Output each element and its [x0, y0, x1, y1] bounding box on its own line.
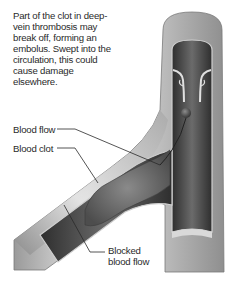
- label-line: blood flow: [108, 256, 149, 267]
- label-line: Blocked: [108, 245, 149, 256]
- caption-line: vein thrombosis may: [13, 21, 118, 32]
- caption-line: Part of the clot in deep-: [13, 10, 118, 21]
- label-blood-clot: Blood clot: [13, 143, 53, 154]
- caption-line: elsewhere.: [13, 76, 118, 87]
- caption-line: circulation, this could: [13, 54, 118, 65]
- caption-line: cause damage: [13, 65, 118, 76]
- caption-line: break off, forming an: [13, 32, 118, 43]
- label-blocked-blood-flow: Blocked blood flow: [108, 245, 149, 267]
- label-blood-flow: Blood flow: [13, 124, 55, 135]
- caption: Part of the clot in deep- vein thrombosi…: [13, 10, 118, 87]
- caption-line: embolus. Swept into the: [13, 43, 118, 54]
- blood-clot-leader: [57, 148, 98, 183]
